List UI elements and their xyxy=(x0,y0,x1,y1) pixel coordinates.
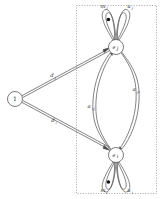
node-ej-subscript: j xyxy=(116,45,119,52)
edge-ej-to-ei xyxy=(119,50,139,150)
node-source-label: 1 xyxy=(13,95,17,102)
node-ej[interactable]: e j xyxy=(109,40,124,55)
edge-source-to-ei xyxy=(22,100,110,150)
label-uj-text: u xyxy=(127,3,130,9)
self-loop-uj xyxy=(116,9,130,41)
self-loop-mj xyxy=(102,9,116,41)
node-ei[interactable]: e i xyxy=(109,148,124,163)
figure-canvas: 1 e j e i m j u j m i u i d xyxy=(0,0,161,199)
label-aij: a ij xyxy=(87,103,95,111)
label-uj: u j xyxy=(127,3,134,11)
graph-diagram: 1 e j e i m j u j m i u i d xyxy=(0,0,161,199)
token-dot-mj xyxy=(107,18,111,22)
node-source[interactable]: 1 xyxy=(8,92,23,107)
label-aij-text: a xyxy=(87,103,90,109)
node-ej-label: e xyxy=(113,44,116,50)
edge-source-to-ej xyxy=(22,48,110,98)
label-mi-sub: i xyxy=(106,191,107,195)
label-uj-sub: j xyxy=(131,6,134,10)
token-dot-mi xyxy=(107,180,111,184)
label-di-sub: i xyxy=(56,121,57,125)
label-ui-sub: i xyxy=(132,191,133,195)
label-mi-text: m xyxy=(101,187,106,193)
edge-ei-to-ej xyxy=(93,52,113,152)
node-ei-label: e xyxy=(113,152,116,158)
label-aij-sub: ij xyxy=(92,107,95,111)
label-aji-text: a xyxy=(132,86,135,92)
label-mj: m j xyxy=(101,3,109,11)
label-aji-sub: ji xyxy=(136,90,139,94)
label-dj-text: d xyxy=(50,72,54,78)
label-ui-text: u xyxy=(127,187,130,193)
label-mj-text: m xyxy=(101,3,106,9)
